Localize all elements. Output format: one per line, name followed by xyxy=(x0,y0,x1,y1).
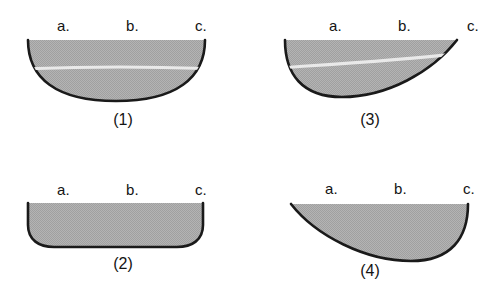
zone-label-c: c. xyxy=(195,18,207,33)
zone-label-row: a. b. c. xyxy=(57,182,207,197)
zone-label-b: b. xyxy=(126,182,139,197)
zone-label-a: a. xyxy=(57,18,70,33)
figure-panel-3: a. b. c. (3) xyxy=(247,0,493,152)
panel-caption: (4) xyxy=(247,263,493,279)
shape-fill xyxy=(291,204,468,261)
shape-fill xyxy=(28,40,205,101)
figure-panel-2: a. b. c. (2) xyxy=(0,152,246,304)
zone-label-b: b. xyxy=(126,18,139,33)
shape-fill xyxy=(285,40,457,97)
zone-label-a: a. xyxy=(329,18,342,33)
panel-caption: (3) xyxy=(247,112,493,128)
figure-panel-1: a. b. c. (1) xyxy=(0,0,246,152)
zone-label-a: a. xyxy=(325,181,338,196)
figure-panel-4: a. b. c. (4) xyxy=(247,153,493,305)
zone-label-c: c. xyxy=(463,181,475,196)
figure-root: a. b. c. (1) a. xyxy=(0,0,493,305)
zone-label-b: b. xyxy=(394,181,407,196)
zone-label-row: a. b. c. xyxy=(57,18,207,33)
zone-label-c: c. xyxy=(467,18,479,33)
zone-label-a: a. xyxy=(57,182,70,197)
shape-asymmetric-hull-point-left-deep-right xyxy=(247,153,493,305)
zone-label-row: a. b. c. xyxy=(325,181,475,196)
zone-label-row: a. b. c. xyxy=(329,18,479,33)
zone-label-c: c. xyxy=(195,182,207,197)
panel-caption: (1) xyxy=(0,112,246,128)
panel-caption: (2) xyxy=(0,256,246,272)
shape-fill xyxy=(28,203,203,247)
shape-flat-bottom-rounded-corners-hull xyxy=(0,152,246,304)
zone-label-b: b. xyxy=(398,18,411,33)
